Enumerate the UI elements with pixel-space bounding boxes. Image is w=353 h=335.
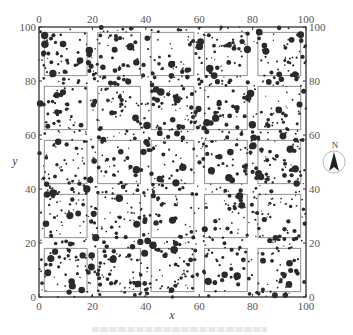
tree-point — [64, 87, 66, 89]
tree-point — [190, 41, 193, 44]
tree-point — [169, 265, 171, 267]
tree-point — [183, 270, 185, 272]
tree-point — [146, 142, 151, 147]
tree-point — [193, 249, 197, 253]
tree-point — [300, 36, 301, 37]
tree-point — [133, 170, 136, 173]
tree-point — [287, 232, 289, 234]
tree-point — [226, 60, 231, 65]
tree-point — [111, 281, 112, 282]
y-tick-label: 60 — [25, 129, 37, 141]
tree-point — [102, 109, 104, 111]
tree-point — [49, 60, 53, 64]
tree-point — [83, 163, 85, 165]
tree-point — [45, 124, 50, 129]
tree-point — [57, 265, 60, 268]
tree-point — [65, 213, 67, 215]
tree-point — [221, 131, 223, 133]
tree-point — [283, 162, 287, 166]
tree-point — [279, 130, 282, 133]
tree-point — [248, 151, 252, 155]
tree-point — [224, 123, 228, 127]
tree-point — [205, 75, 208, 78]
tree-point — [123, 291, 126, 294]
tree-point — [227, 149, 234, 156]
tree-point — [98, 269, 100, 271]
tree-point — [277, 108, 281, 112]
tree-point — [173, 216, 177, 220]
tree-point — [262, 235, 264, 237]
tree-point — [124, 159, 126, 161]
tree-point — [55, 146, 56, 147]
tree-point — [79, 277, 81, 279]
tree-point — [221, 80, 223, 82]
tree-point — [200, 148, 201, 149]
tree-point — [289, 247, 291, 249]
tree-point — [52, 248, 58, 254]
tree-point — [124, 287, 126, 289]
tree-point — [136, 224, 138, 226]
tree-point — [286, 128, 289, 131]
tree-point — [113, 266, 115, 268]
tree-point — [151, 275, 152, 276]
tree-point — [189, 230, 193, 234]
tree-point — [51, 33, 55, 37]
tree-point — [244, 44, 246, 46]
tree-point — [177, 202, 178, 203]
tree-point — [203, 165, 205, 167]
tree-point — [59, 233, 61, 235]
tree-point — [179, 276, 182, 279]
tree-point — [172, 160, 174, 162]
tree-point — [288, 293, 289, 294]
tree-point — [73, 191, 75, 193]
tree-point — [267, 81, 270, 84]
tree-point — [268, 202, 271, 205]
tree-point — [118, 67, 122, 71]
tree-point — [292, 57, 294, 59]
tree-point — [181, 136, 186, 141]
tree-point — [282, 121, 285, 124]
tree-point — [208, 107, 211, 110]
tree-point — [77, 51, 80, 54]
tree-point — [276, 248, 278, 250]
subplot-square — [98, 86, 141, 129]
tree-point — [109, 110, 114, 115]
tree-point — [238, 246, 241, 249]
tree-point — [146, 292, 147, 293]
tree-point — [120, 110, 123, 113]
tree-point — [94, 207, 96, 209]
tree-point — [248, 222, 249, 223]
tree-point — [277, 287, 279, 289]
tree-point — [254, 212, 255, 213]
tree-point — [287, 60, 290, 63]
tree-point — [183, 64, 184, 65]
tree-point — [54, 92, 60, 98]
tree-point — [139, 259, 140, 260]
tree-point — [254, 41, 255, 42]
tree-point — [281, 168, 284, 171]
tree-point — [42, 177, 45, 180]
tree-point — [139, 273, 143, 277]
tree-point — [264, 56, 266, 58]
tree-point — [79, 225, 80, 226]
tree-point — [161, 202, 164, 205]
tree-point — [272, 238, 274, 240]
tree-point — [130, 244, 135, 249]
tree-point — [155, 279, 157, 281]
tree-point — [42, 103, 46, 107]
tree-point — [219, 228, 221, 230]
tree-point — [210, 83, 212, 85]
x-tick-label: 0 — [36, 300, 42, 312]
tree-point — [158, 184, 160, 186]
tree-point — [139, 122, 142, 125]
tree-point — [213, 51, 216, 54]
tree-point — [299, 171, 301, 173]
tree-point — [105, 141, 107, 143]
tree-point — [157, 39, 159, 41]
tree-point — [143, 117, 145, 119]
tree-point — [272, 181, 274, 183]
tree-point — [112, 192, 114, 194]
tree-point — [157, 30, 160, 33]
tree-point — [188, 258, 193, 263]
tree-point — [128, 165, 132, 169]
